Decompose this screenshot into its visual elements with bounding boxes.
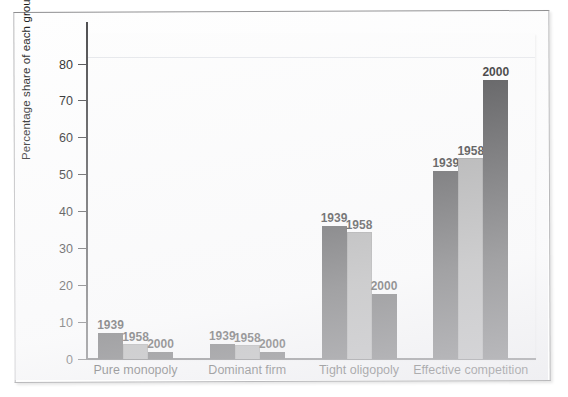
y-tick: 70 — [78, 100, 86, 101]
bar[interactable]: 1939 — [210, 344, 235, 360]
bar-value-label: 1939 — [432, 156, 459, 170]
y-tick-label: 10 — [59, 316, 73, 330]
bar-value-label: 1958 — [346, 218, 373, 232]
bar-value-label: 1958 — [457, 144, 484, 158]
category-label: Tight oligopoly — [319, 363, 399, 377]
bar[interactable]: 1939 — [322, 226, 347, 359]
bar-group: 193919582000Effective competition — [433, 34, 508, 359]
y-axis-title: Percentage share of each group — [20, 0, 32, 160]
bar-group-inner: 193919582000Pure monopoly — [98, 34, 173, 359]
y-tick: 60 — [78, 137, 86, 138]
bar-group: 193919582000Pure monopoly — [98, 34, 173, 359]
bar[interactable]: 1939 — [98, 333, 123, 359]
category-label: Pure monopoly — [93, 363, 177, 377]
bar-group-inner: 193919582000Tight oligopoly — [322, 34, 397, 359]
bar-value-label: 2000 — [147, 337, 174, 351]
bar[interactable]: 2000 — [372, 294, 397, 359]
category-label: Dominant firm — [208, 363, 286, 377]
bar-value-label: 1939 — [97, 318, 124, 332]
bar-group: 193919582000Tight oligopoly — [322, 34, 397, 359]
bar-value-label: 1939 — [209, 329, 236, 343]
bar-value-label: 1958 — [122, 330, 149, 344]
bar[interactable]: 2000 — [148, 352, 173, 359]
y-tick: 30 — [78, 248, 86, 249]
bar-group-inner: 193919582000Effective competition — [433, 34, 508, 359]
bar-chart: 01020304050607080 Percentage share of ea… — [0, 0, 568, 397]
y-tick-label: 30 — [59, 242, 73, 256]
y-tick: 80 — [78, 64, 86, 65]
figure-page: 01020304050607080 Percentage share of ea… — [0, 0, 568, 397]
y-tick-label: 60 — [59, 131, 73, 145]
y-tick-label: 80 — [59, 58, 73, 72]
y-tick: 40 — [78, 211, 86, 212]
bar[interactable]: 1939 — [433, 171, 458, 359]
bar[interactable]: 1958 — [235, 345, 260, 359]
y-tick: 50 — [78, 174, 86, 175]
y-tick: 0 — [78, 359, 86, 360]
bar-value-label: 2000 — [482, 65, 509, 79]
bar-value-label: 1958 — [234, 331, 261, 345]
y-tick: 20 — [78, 285, 86, 286]
category-label: Effective competition — [413, 363, 528, 377]
y-tick-label: 40 — [59, 205, 73, 219]
bar[interactable]: 2000 — [483, 80, 508, 359]
bar-group: 193919582000Dominant firm — [210, 34, 285, 359]
y-tick-label: 70 — [59, 94, 73, 108]
bar-group-inner: 193919582000Dominant firm — [210, 34, 285, 359]
bar[interactable]: 1958 — [458, 158, 483, 359]
y-tick: 10 — [78, 322, 86, 323]
bar-value-label: 1939 — [321, 211, 348, 225]
bar-value-label: 2000 — [371, 279, 398, 293]
y-tick-label: 0 — [66, 353, 73, 367]
bar[interactable]: 1958 — [123, 344, 148, 359]
bar[interactable]: 2000 — [260, 352, 285, 359]
bar[interactable]: 1958 — [347, 232, 372, 359]
bars-layer: 193919582000Pure monopoly193919582000Dom… — [88, 34, 535, 359]
y-tick-label: 50 — [59, 168, 73, 182]
bar-value-label: 2000 — [259, 337, 286, 351]
y-tick-label: 20 — [59, 279, 73, 293]
